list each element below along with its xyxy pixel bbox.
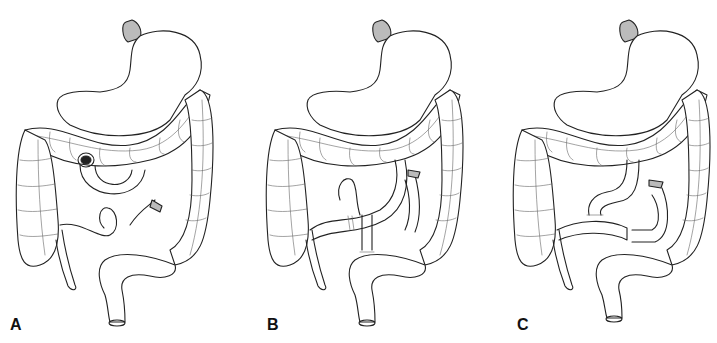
panel-label-c: C bbox=[517, 316, 529, 334]
panel-b: B bbox=[240, 0, 480, 343]
panel-c: C bbox=[477, 0, 717, 343]
panel-a: A bbox=[0, 0, 240, 343]
panel-label-a: A bbox=[10, 316, 22, 334]
gi-tract-illustration-normal bbox=[0, 0, 240, 343]
gi-tract-illustration-reconstruction-b bbox=[240, 0, 480, 343]
panel-label-b: B bbox=[267, 316, 279, 334]
gi-tract-illustration-reconstruction-c bbox=[477, 0, 717, 343]
